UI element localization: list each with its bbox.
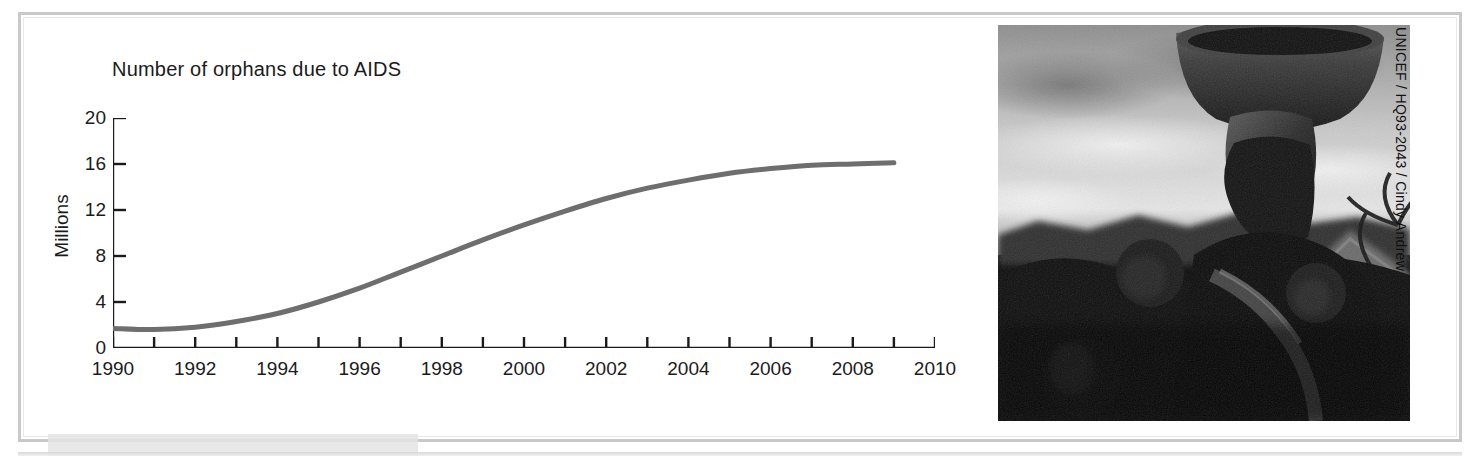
y-axis-tick-labels: 048121620 [56, 118, 106, 348]
x-tick-label: 1994 [237, 358, 317, 380]
photograph [998, 25, 1410, 421]
y-tick-label: 0 [60, 337, 106, 359]
x-tick-label: 2006 [731, 358, 811, 380]
chart-title: Number of orphans due to AIDS [112, 58, 401, 81]
y-tick-label: 4 [60, 291, 106, 313]
x-tick-label: 1992 [155, 358, 235, 380]
x-tick-label: 2004 [648, 358, 728, 380]
x-tick-label: 2008 [813, 358, 893, 380]
photo-block: UNICEF / HQ93-2043 / Cindy Andrew [998, 25, 1410, 421]
photo-credit: UNICEF / HQ93-2043 / Cindy Andrew [1390, 25, 1412, 421]
photo-content [998, 25, 1410, 421]
x-tick-label: 1990 [73, 358, 153, 380]
y-tick-label: 16 [60, 153, 106, 175]
x-tick-label: 1996 [320, 358, 400, 380]
x-tick-label: 2010 [895, 358, 975, 380]
x-axis-tick-labels: 1990199219941996199820002002200420062008… [113, 358, 935, 388]
plot-area [113, 118, 935, 348]
chart-panel: Number of orphans due to AIDS Millions 0… [24, 40, 974, 400]
x-tick-label: 1998 [402, 358, 482, 380]
line-chart-svg [113, 118, 935, 348]
y-tick-label: 8 [60, 245, 106, 267]
x-tick-label: 2002 [566, 358, 646, 380]
y-tick-label: 12 [60, 199, 106, 221]
x-tick-label: 2000 [484, 358, 564, 380]
scan-artifact-line [18, 452, 1462, 456]
y-tick-label: 20 [60, 107, 106, 129]
